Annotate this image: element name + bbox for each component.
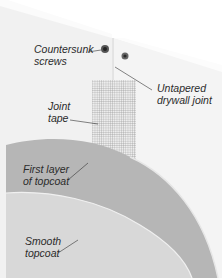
drywall-diagram: Countersunk screws Untapered drywall joi… <box>0 0 222 278</box>
label-untapered-joint: Untapered drywall joint <box>157 83 212 106</box>
label-smooth-topcoat: Smooth topcoat <box>25 236 61 259</box>
label-first-layer-topcoat: First layer of topcoat <box>23 164 69 187</box>
label-countersunk-screws: Countersunk screws <box>34 44 94 67</box>
label-joint-tape: Joint tape <box>48 101 70 124</box>
